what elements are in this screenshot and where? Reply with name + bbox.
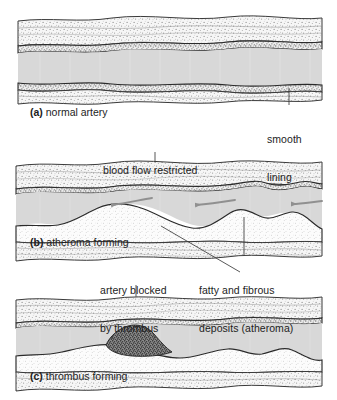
label-artery-blocked-line2: by thrombus [100,322,167,335]
caption-panel-a-tag: (a) [30,106,43,118]
label-fatty-deposits-line1: fatty and fibrous [199,284,293,297]
artery-disease-figure: smooth lining blood flow restricted arte… [0,0,337,400]
label-smooth-lining-line2: lining [267,171,302,184]
label-artery-blocked-line1: artery blocked [100,284,167,297]
label-fatty-deposits-line2: deposits (atheroma) [199,322,293,335]
label-fatty-fibrous-deposits: fatty and fibrous deposits (atheroma) [199,259,293,359]
caption-panel-c-title: thrombus forming [46,370,128,382]
label-blood-flow-restricted: blood flow restricted [103,139,197,202]
caption-panel-a-title: normal artery [46,106,108,118]
caption-panel-a: (a) normal artery [30,106,108,119]
caption-panel-c: (c) thrombus forming [30,370,127,383]
panel-a-normal-artery [18,16,322,105]
label-artery-blocked-by-thrombus: artery blocked by thrombus [100,259,167,359]
label-smooth-lining-line1: smooth [267,133,302,146]
caption-panel-c-tag: (c) [30,370,43,382]
caption-panel-b: (b) atheroma forming [30,236,129,249]
artery-lumen-a [18,48,322,87]
caption-panel-b-title: atheroma forming [46,236,128,248]
caption-panel-b-tag: (b) [30,236,43,248]
label-smooth-lining: smooth lining [267,108,302,208]
label-blood-flow-restricted-line1: blood flow restricted [103,164,197,177]
